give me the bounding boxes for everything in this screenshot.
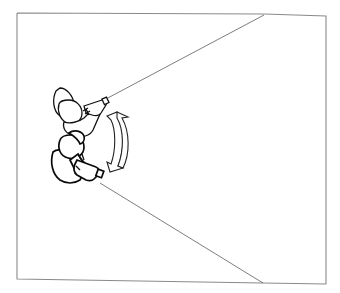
diagram-canvas — [0, 0, 340, 293]
operator-upper — [54, 88, 109, 137]
sight-line-upper — [104, 15, 264, 100]
operator-lower — [52, 131, 104, 183]
pan-arrow — [107, 112, 128, 172]
sight-line-lower — [100, 183, 263, 283]
